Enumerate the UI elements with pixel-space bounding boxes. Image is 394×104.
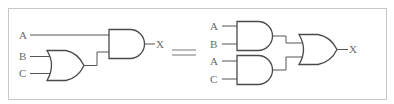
left-circuit: A B C X [19, 29, 164, 81]
label-right-c: C [210, 73, 217, 85]
wire-and-top-to-or [273, 36, 303, 43]
wire-and-bottom-to-or [273, 57, 303, 70]
label-right-b: B [210, 38, 217, 50]
label-left-c: C [19, 67, 26, 79]
or-gate-icon [47, 51, 84, 81]
and-gate-icon [109, 30, 145, 59]
equals-sign [172, 50, 196, 55]
and-gate-bottom-icon [237, 56, 273, 85]
and-gate-top-icon [237, 22, 272, 51]
or-gate-output-icon [299, 35, 337, 65]
right-circuit: A B A C X [210, 20, 357, 85]
label-right-a2: A [210, 55, 218, 67]
label-left-a: A [19, 29, 27, 41]
label-right-x: X [349, 43, 357, 55]
logic-equivalence-diagram: A B C X A B A C [0, 0, 394, 104]
label-left-x: X [156, 38, 164, 50]
label-right-a1: A [210, 20, 218, 32]
wire-or-to-and [84, 52, 109, 66]
label-left-b: B [19, 50, 26, 62]
